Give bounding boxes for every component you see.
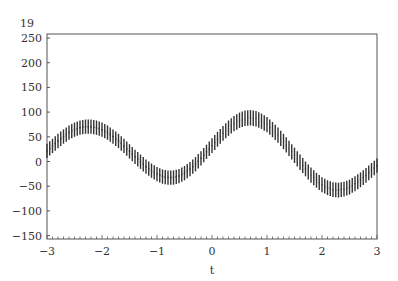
x-tick-label: 1	[264, 245, 271, 258]
y-tick-label: −50	[19, 180, 42, 193]
y-tick-label: 200	[21, 57, 42, 70]
chart: 19 250200150100500−50−100−150 −3−2−10123…	[0, 0, 398, 281]
y-tick-label: 0	[35, 156, 42, 169]
y-tick-label: 250	[21, 32, 42, 45]
x-axis: −3−2−10123	[39, 235, 381, 258]
y-tick-label: −100	[12, 205, 42, 218]
y-tick-label: 100	[21, 106, 42, 119]
x-tick-label: −2	[94, 245, 110, 258]
x-tick-label: 2	[319, 245, 326, 258]
y-axis: 250200150100500−50−100−150	[12, 32, 50, 243]
y-tick-label: 50	[28, 131, 42, 144]
chart-title: 19	[20, 17, 34, 30]
x-tick-label: 0	[209, 245, 216, 258]
y-tick-label: −150	[12, 230, 42, 243]
plot-frame	[47, 34, 377, 239]
y-tick-label: 150	[21, 81, 42, 94]
x-tick-label: −3	[39, 245, 55, 258]
x-axis-label: t	[210, 264, 215, 277]
x-tick-label: −1	[149, 245, 165, 258]
data-series	[47, 110, 377, 197]
x-tick-label: 3	[374, 245, 381, 258]
